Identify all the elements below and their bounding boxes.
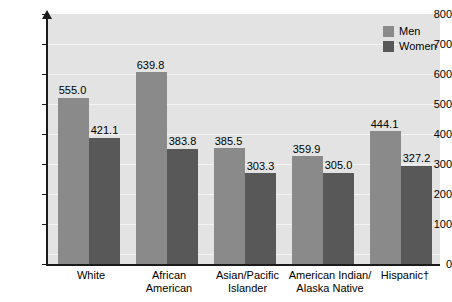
bar-women (89, 138, 120, 264)
legend-label-women: Women (399, 41, 437, 52)
bar-value-women: 383.8 (160, 136, 205, 147)
legend-swatch-women-icon (383, 41, 394, 52)
bar-men (136, 72, 167, 264)
bar-value-women: 303.3 (238, 161, 283, 172)
bar-group: 359.9 305.0 (286, 14, 356, 264)
bar-group: 555.0 421.1 (52, 14, 122, 264)
legend-item-women: Women (383, 41, 437, 52)
category-label-african-american: African American (130, 269, 208, 295)
x-axis-line (46, 264, 440, 266)
bar-women (167, 149, 198, 264)
y-tick-mark (42, 264, 46, 265)
y-tick-label: 200 (410, 189, 452, 200)
y-tick-label: 600 (410, 69, 452, 80)
y-tick-mark (42, 224, 46, 225)
category-label-white: White (52, 269, 130, 282)
y-tick-mark (42, 194, 46, 195)
category-label-asian-pacific-islander: Asian/Pacific Islander (205, 269, 290, 295)
y-tick-mark (42, 164, 46, 165)
bar-women (245, 173, 276, 264)
legend-item-men: Men (383, 26, 437, 37)
bar-value-men: 639.8 (128, 60, 173, 71)
bar-value-men: 555.0 (50, 85, 95, 96)
bar-group: 639.8 383.8 (130, 14, 200, 264)
bar-value-women: 305.0 (316, 160, 361, 171)
bar-men (292, 156, 323, 264)
y-tick-mark (42, 104, 46, 105)
bar-value-women: 421.1 (82, 125, 127, 136)
legend: Men Women (383, 26, 437, 56)
y-tick-label: 800 (410, 9, 452, 20)
legend-swatch-men-icon (383, 26, 394, 37)
bar-men (370, 131, 401, 264)
plot-area: 555.0 421.1 639.8 383.8 385.5 303.3 359.… (48, 14, 440, 264)
category-label-hispanic: Hispanic† (366, 269, 444, 282)
bar-women (323, 173, 354, 265)
y-tick-label: 300 (410, 159, 452, 170)
bar-chart: 555.0 421.1 639.8 383.8 385.5 303.3 359.… (0, 0, 452, 302)
bar-group: 385.5 303.3 (208, 14, 278, 264)
y-tick-mark (42, 14, 46, 15)
y-tick-mark (42, 44, 46, 45)
y-tick-mark (42, 134, 46, 135)
y-tick-label: 100 (410, 219, 452, 230)
bar-value-men: 359.9 (284, 144, 329, 155)
bar-value-men: 444.1 (362, 119, 407, 130)
y-tick-mark (42, 74, 46, 75)
category-label-american-indian-alaska-native: American Indian/ Alaska Native (281, 269, 379, 295)
y-tick-label: 400 (410, 129, 452, 140)
bar-men (58, 98, 89, 265)
legend-label-men: Men (399, 26, 420, 37)
y-tick-label: 500 (410, 99, 452, 110)
bar-women (401, 166, 432, 264)
y-axis-line (46, 18, 48, 265)
bar-value-men: 385.5 (206, 136, 251, 147)
